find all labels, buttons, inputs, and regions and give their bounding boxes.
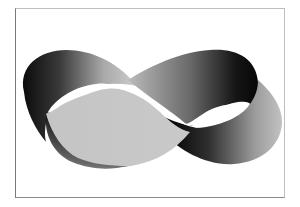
mobius-infinity-illustration [0,0,300,207]
